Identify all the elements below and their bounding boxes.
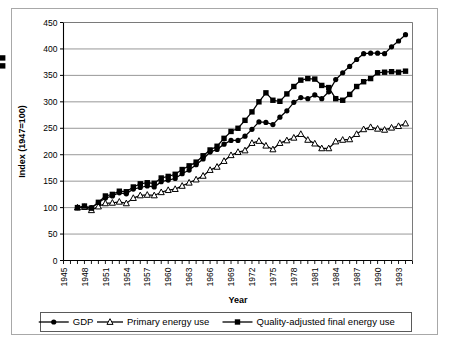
data-point-marker	[382, 51, 387, 56]
data-point-marker	[319, 83, 324, 88]
data-point-marker	[116, 198, 122, 204]
x-tick-label: 1981	[310, 267, 320, 286]
data-point-marker	[347, 64, 352, 69]
data-point-marker	[0, 55, 5, 60]
data-point-marker	[389, 69, 394, 74]
data-point-marker	[75, 205, 80, 210]
data-point-marker	[368, 76, 373, 81]
series-quality-adjusted-final-energy-use	[0, 55, 408, 211]
data-point-marker	[263, 120, 268, 125]
series-line	[77, 71, 405, 208]
x-tick-label: 1945	[59, 267, 69, 286]
data-point-marker	[179, 167, 184, 172]
data-point-marker	[396, 70, 401, 75]
y-tick-label: 50	[48, 229, 58, 239]
data-point-marker	[214, 144, 219, 149]
data-point-marker	[298, 77, 303, 82]
data-point-marker	[368, 51, 373, 56]
data-point-marker	[305, 96, 310, 101]
y-axis-title: Index (1947=100)	[17, 105, 27, 177]
data-point-marker	[354, 131, 360, 137]
series-primary-energy-use	[74, 120, 408, 212]
data-point-marker	[131, 184, 136, 189]
data-point-marker	[382, 70, 387, 75]
data-point-marker	[319, 96, 324, 101]
y-tick-label: 200	[43, 150, 57, 160]
legend-label: Quality-adjusted final energy use	[257, 316, 395, 327]
y-tick-label: 250	[43, 123, 57, 133]
y-tick-label: 350	[43, 70, 57, 80]
data-point-marker	[221, 136, 226, 141]
x-tick-label: 1984	[331, 267, 341, 286]
data-point-marker	[200, 153, 205, 158]
data-point-marker	[89, 205, 94, 210]
data-point-marker	[305, 76, 310, 81]
data-point-marker	[375, 70, 380, 75]
data-point-marker	[291, 84, 296, 89]
data-point-marker	[291, 100, 296, 105]
data-point-marker	[354, 57, 359, 62]
data-point-marker	[403, 68, 408, 73]
x-tick-label: 1963	[184, 267, 194, 286]
data-point-marker	[263, 142, 269, 148]
data-point-marker	[103, 193, 108, 198]
data-point-marker	[312, 92, 317, 97]
data-point-marker	[242, 134, 247, 139]
data-point-marker	[193, 159, 198, 164]
data-point-marker	[117, 189, 122, 194]
data-point-marker	[403, 32, 408, 37]
y-tick-label: 400	[43, 44, 57, 54]
data-point-marker	[96, 200, 101, 205]
y-tick-label: 300	[43, 97, 57, 107]
data-point-marker	[333, 77, 338, 82]
data-point-marker	[340, 70, 345, 75]
data-point-marker	[354, 84, 359, 89]
x-axis-title: Year	[228, 295, 248, 305]
data-point-marker	[110, 192, 115, 197]
x-tick-label: 1987	[352, 267, 362, 286]
x-tick-label: 1972	[247, 267, 257, 286]
data-point-marker	[368, 124, 374, 130]
x-tick-label: 1978	[289, 267, 299, 286]
y-tick-label: 100	[43, 203, 57, 213]
x-tick-label: 1975	[268, 267, 278, 286]
data-point-marker	[340, 98, 345, 103]
data-point-marker	[249, 109, 254, 114]
data-point-marker	[145, 180, 150, 185]
x-tick-label: 1990	[373, 267, 383, 286]
data-point-marker	[284, 91, 289, 96]
data-point-marker	[235, 138, 240, 143]
data-point-marker	[82, 203, 87, 208]
y-axis-ticks: 050100150200250300350400450	[43, 18, 63, 266]
chart-figure: 050100150200250300350400450 194519481951…	[0, 0, 449, 343]
data-point-marker	[228, 129, 233, 134]
legend-marker-filled-circle	[51, 319, 56, 324]
data-point-marker	[375, 51, 380, 56]
data-point-marker	[277, 99, 282, 104]
data-point-marker	[361, 79, 366, 84]
data-series	[0, 32, 409, 213]
data-point-marker	[263, 90, 268, 95]
data-point-marker	[249, 127, 254, 132]
data-point-marker	[0, 63, 5, 68]
data-point-marker	[298, 131, 304, 137]
x-tick-label: 1951	[101, 267, 111, 286]
data-point-marker	[270, 98, 275, 103]
data-point-marker	[172, 172, 177, 177]
data-point-marker	[347, 92, 352, 97]
data-point-marker	[159, 175, 164, 180]
data-point-marker	[124, 189, 129, 194]
series-gdp	[75, 32, 408, 210]
data-point-marker	[277, 115, 282, 120]
data-point-marker	[256, 119, 261, 124]
x-tick-label: 1948	[80, 267, 90, 286]
data-point-marker	[221, 142, 226, 147]
data-point-marker	[326, 85, 331, 90]
chart-canvas: 050100150200250300350400450 194519481951…	[0, 0, 449, 343]
data-point-marker	[284, 108, 289, 113]
legend-label: GDP	[73, 316, 94, 327]
x-tick-label: 1966	[205, 267, 215, 286]
data-point-marker	[333, 96, 338, 101]
data-point-marker	[256, 138, 262, 144]
x-tick-label: 1960	[163, 267, 173, 286]
